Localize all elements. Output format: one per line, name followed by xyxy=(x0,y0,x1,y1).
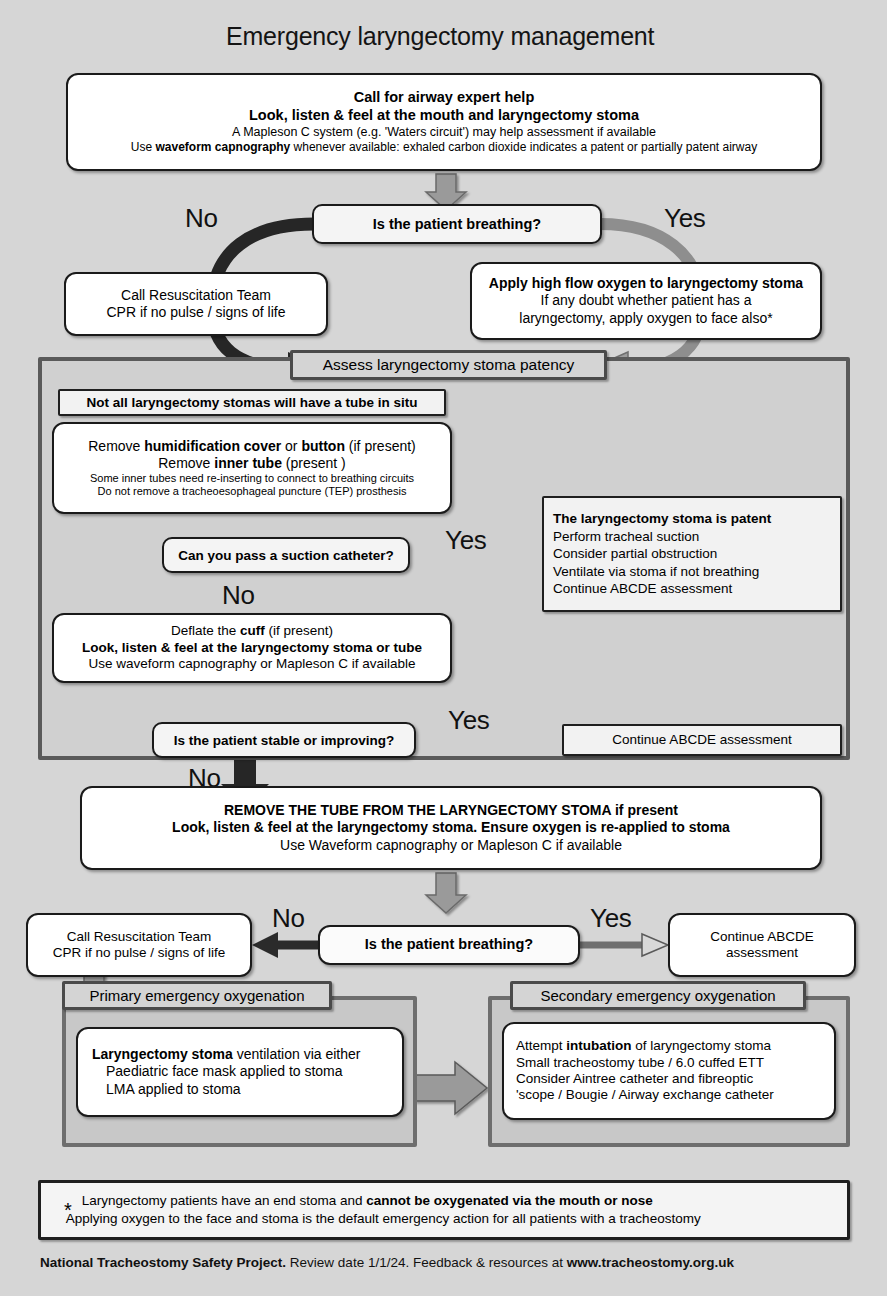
primary-line-3: LMA applied to stoma xyxy=(92,1081,394,1098)
start-line-4-c: whenever available: exhaled carbon dioxi… xyxy=(290,140,757,154)
start-line-4-a: Use xyxy=(131,140,156,154)
remove-line-1-emph2: button xyxy=(301,438,345,454)
remove-tube-from-stoma-box: REMOVE THE TUBE FROM THE LARYNGECTOMY ST… xyxy=(80,786,822,870)
deflate-line-3: Use waveform capnography or Mapleson C i… xyxy=(62,656,442,672)
secondary-line-1-emph: intubation xyxy=(566,1038,631,1053)
note-tube-label: Not all laryngectomy stomas will have a … xyxy=(87,394,418,412)
continue-abcde-2-line-1: Continue ABCDE xyxy=(678,929,846,945)
remove-line-2-emph: inner tube xyxy=(214,455,282,471)
decision-is-patient-stable-or-improving[interactable]: Is the patient stable or improving? xyxy=(152,722,416,758)
patent-line-2: Perform tracheal suction xyxy=(553,528,699,546)
deflate-line-2: Look, listen & feel at the laryngectomy … xyxy=(62,640,442,656)
removetube-line-1: REMOVE THE TUBE FROM THE LARYNGECTOMY ST… xyxy=(90,802,812,819)
removetube-line-3: Use Waveform capnography or Mapleson C i… xyxy=(90,837,812,854)
suction-decision-label: Can you pass a suction catheter? xyxy=(178,548,393,563)
decision-is-patient-breathing-2[interactable]: Is the patient breathing? xyxy=(318,925,580,965)
call-resuscitation-team-box-2: Call Resuscitation Team CPR if no pulse … xyxy=(26,913,252,977)
decision2-yes-label: Yes xyxy=(590,903,632,934)
note-not-all-stomas-have-tube: Not all laryngectomy stomas will have a … xyxy=(58,389,446,416)
remove-line-3: Some inner tubes need re-inserting to co… xyxy=(62,472,442,485)
decision2-label: Is the patient breathing? xyxy=(328,936,570,954)
arrow-primary-to-secondary xyxy=(415,1062,487,1114)
decision1-no-label: No xyxy=(185,203,218,234)
footnote-line-1: Laryngectomy patients have an end stoma … xyxy=(82,1192,653,1210)
remove-line-1: Remove humidification cover or button (i… xyxy=(62,438,442,455)
decision1-yes-label: Yes xyxy=(664,203,706,234)
continue-abcde-box-2: Continue ABCDE assessment xyxy=(668,913,856,977)
resus2-line-2: CPR if no pulse / signs of life xyxy=(36,945,242,961)
patent-line-5: Continue ABCDE assessment xyxy=(553,580,732,598)
deflate-line-1-emph: cuff xyxy=(240,623,265,638)
primary-line-1: Laryngectomy stoma ventilation via eithe… xyxy=(92,1046,394,1063)
oxygen-line-3: laryngectomy, apply oxygen to face also* xyxy=(480,310,812,327)
footnote-box: * Laryngectomy patients have an end stom… xyxy=(38,1180,850,1240)
resus1-line-2: CPR if no pulse / signs of life xyxy=(74,304,318,321)
start-line-4: Use waveform capnography whenever availa… xyxy=(76,140,812,155)
decision2-no-label: No xyxy=(272,903,305,934)
assess-panel-header: Assess laryngectomy stoma patency xyxy=(290,350,607,380)
deflate-line-1: Deflate the cuff (if present) xyxy=(62,623,442,639)
decision-can-pass-suction-catheter[interactable]: Can you pass a suction catheter? xyxy=(162,537,410,573)
laryngectomy-flowchart-page: Emergency laryngectomy management Call f… xyxy=(0,0,887,1296)
secondary-oxygenation-content-box: Attempt intubation of laryngectomy stoma… xyxy=(502,1022,836,1120)
apply-high-flow-oxygen-box: Apply high flow oxygen to laryngectomy s… xyxy=(470,262,822,340)
primary-oxygenation-header: Primary emergency oxygenation xyxy=(62,981,332,1010)
suction-yes-label: Yes xyxy=(445,525,487,556)
secondary-line-4: 'scope / Bougie / Airway exchange cathet… xyxy=(516,1087,826,1103)
patent-line-4: Ventilate via stoma if not breathing xyxy=(553,563,759,581)
remove-line-2-c: (present ) xyxy=(282,455,346,471)
arrow-decision2-yes xyxy=(578,934,668,956)
page-title: Emergency laryngectomy management xyxy=(226,22,654,51)
primary-line-1-b: ventilation via either xyxy=(233,1046,361,1062)
remove-line-1-c: or xyxy=(281,438,301,454)
continue-abcde-1-label: Continue ABCDE assessment xyxy=(612,731,791,749)
secondary-line-1: Attempt intubation of laryngectomy stoma xyxy=(516,1038,826,1054)
footnote-line-2: Applying oxygen to the face and stoma is… xyxy=(66,1210,701,1228)
remove-line-1-a: Remove xyxy=(88,438,144,454)
deflate-line-1-c: (if present) xyxy=(265,623,333,638)
suction-no-label: No xyxy=(222,580,255,611)
oxygen-line-2: If any doubt whether patient has a xyxy=(480,292,812,309)
patent-line-3: Consider partial obstruction xyxy=(553,545,717,563)
footnote-line-1-a: Laryngectomy patients have an end stoma … xyxy=(82,1193,366,1208)
oxygen-line-1: Apply high flow oxygen to laryngectomy s… xyxy=(480,275,812,292)
continue-abcde-box-1: Continue ABCDE assessment xyxy=(562,724,842,756)
arrow-decision2-no xyxy=(252,932,318,958)
remove-line-2-a: Remove xyxy=(158,455,214,471)
decision-is-patient-breathing-1[interactable]: Is the patient breathing? xyxy=(312,204,602,244)
assess-panel-header-label: Assess laryngectomy stoma patency xyxy=(323,356,575,374)
start-line-2: Look, listen & feel at the mouth and lar… xyxy=(76,107,812,125)
primary-line-2: Paediatric face mask applied to stoma xyxy=(92,1063,394,1080)
stoma-is-patent-box: The laryngectomy stoma is patent Perform… xyxy=(542,496,842,612)
resus1-line-1: Call Resuscitation Team xyxy=(74,287,318,304)
call-resuscitation-team-box-1: Call Resuscitation Team CPR if no pulse … xyxy=(64,272,328,336)
start-line-1: Call for airway expert help xyxy=(76,89,812,107)
stable-decision-label: Is the patient stable or improving? xyxy=(174,733,395,748)
patent-line-1: The laryngectomy stoma is patent xyxy=(553,510,771,528)
credit-bold-1: National Tracheostomy Safety Project. xyxy=(40,1255,286,1270)
secondary-oxygenation-header-label: Secondary emergency oxygenation xyxy=(540,987,775,1004)
start-instructions-box: Call for airway expert help Look, listen… xyxy=(66,73,822,171)
stable-yes-label: Yes xyxy=(448,705,490,736)
primary-line-1-emph: Laryngectomy stoma xyxy=(92,1046,233,1062)
secondary-line-1-a: Attempt xyxy=(516,1038,566,1053)
remove-line-1-e: (if present) xyxy=(345,438,416,454)
remove-line-1-emph1: humidification cover xyxy=(144,438,281,454)
remove-line-4: Do not remove a tracheoesophageal punctu… xyxy=(62,485,442,498)
credit-bold-2: www.tracheostomy.org.uk xyxy=(567,1255,734,1270)
deflate-line-1-a: Deflate the xyxy=(171,623,240,638)
decision1-label: Is the patient breathing? xyxy=(373,216,541,232)
footnote-line-1-emph: cannot be oxygenated via the mouth or no… xyxy=(366,1193,653,1208)
secondary-line-1-c: of laryngectomy stoma xyxy=(632,1038,772,1053)
credit-line: National Tracheostomy Safety Project. Re… xyxy=(40,1255,734,1270)
continue-abcde-2-line-2: assessment xyxy=(678,945,846,961)
primary-oxygenation-content-box: Laryngectomy stoma ventilation via eithe… xyxy=(76,1027,404,1117)
resus2-line-1: Call Resuscitation Team xyxy=(36,929,242,945)
removetube-line-2: Look, listen & feel at the laryngectomy … xyxy=(90,819,812,836)
secondary-oxygenation-header: Secondary emergency oxygenation xyxy=(510,981,806,1010)
arrow-removetube-to-decision2 xyxy=(426,873,466,913)
secondary-line-2: Small tracheostomy tube / 6.0 cuffed ETT xyxy=(516,1055,826,1071)
deflate-cuff-box: Deflate the cuff (if present) Look, list… xyxy=(52,613,452,683)
credit-normal: Review date 1/1/24. Feedback & resources… xyxy=(286,1255,567,1270)
primary-oxygenation-header-label: Primary emergency oxygenation xyxy=(89,987,304,1004)
